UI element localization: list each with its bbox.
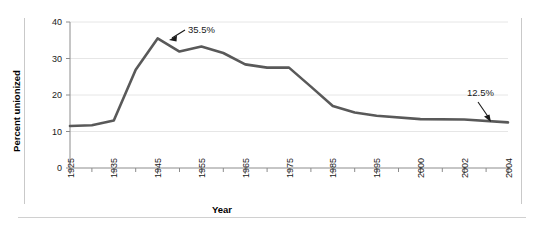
y-axis-tick-label: 30: [52, 54, 62, 64]
x-axis-tick-label: 2004: [504, 158, 514, 178]
x-axis-tick-label: 1975: [285, 158, 295, 178]
line-chart-plot: 010203040 192519351945195519651975198519…: [0, 0, 546, 240]
x-axis-tick-label: 1925: [66, 158, 76, 178]
x-axis-tick-label: 1935: [109, 158, 119, 178]
x-axis-title: Year: [212, 204, 232, 215]
y-axis-tick-label: 10: [52, 127, 62, 137]
y-axis-ticks-group: [66, 22, 70, 168]
data-series-line: [70, 38, 508, 126]
annotation-end-label: 12.5%: [467, 87, 494, 98]
y-axis-title: Percent unionized: [11, 70, 22, 152]
annotation-peak-label: 35.5%: [188, 24, 215, 35]
x-axis-tick-label: 1965: [241, 158, 251, 178]
chart-figure: 010203040 192519351945195519651975198519…: [0, 0, 546, 240]
y-axis-tick-label: 40: [52, 17, 62, 27]
x-axis-tick-label: 1985: [328, 158, 338, 178]
y-axis-tick-labels: 010203040: [52, 17, 62, 173]
x-axis-tick-label: 1995: [372, 158, 382, 178]
gridlines-group: [70, 22, 508, 132]
annotation-peak-arrow-line: [172, 30, 185, 38]
y-axis-tick-label: 0: [57, 163, 62, 173]
x-axis-tick-label: 2002: [460, 158, 470, 178]
y-axis-tick-label: 20: [52, 90, 62, 100]
annotation-peak-arrow-head: [169, 36, 177, 42]
x-axis-tick-label: 1945: [153, 158, 163, 178]
x-axis-tick-label: 1955: [197, 158, 207, 178]
x-axis-tick-label: 2000: [416, 158, 426, 178]
